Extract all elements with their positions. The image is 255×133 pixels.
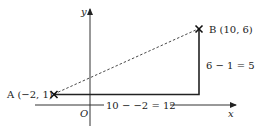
origin-label: O (80, 108, 88, 119)
horizontal-distance-label: 10 − −2 = 12 (106, 100, 176, 111)
x-axis-label: x (228, 108, 234, 119)
point-b-label: B (10, 6) (209, 24, 253, 35)
segment-ab-dashed (54, 29, 198, 94)
y-axis-label: y (80, 6, 87, 17)
point-a-label: A (−2, 1) (6, 89, 53, 100)
coordinate-diagram: y x O 10 − −2 = 12 A (−2, 1) B (10, 6) 6… (0, 0, 255, 133)
vertical-distance-label: 6 − 1 = 5 (206, 60, 255, 71)
